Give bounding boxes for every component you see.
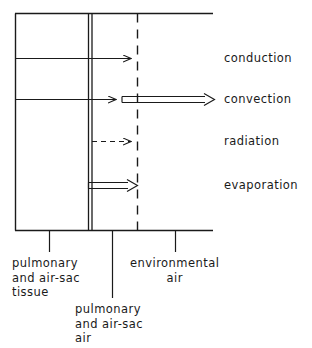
figure-container: conduction convection radiation evaporat…: [0, 0, 312, 348]
region-label-air-sac-air: pulmonary and air-sac air: [75, 302, 143, 346]
frame-group: [15, 14, 213, 231]
convection-arrow-head: [204, 94, 215, 106]
flow-label-evaporation: evaporation: [224, 180, 298, 192]
region-label-tissue: pulmonary and air-sac tissue: [12, 256, 80, 300]
evaporation-arrow: [89, 180, 138, 192]
convection-arrow: [16, 94, 215, 106]
evaporation-arrow-head: [127, 180, 138, 192]
air-sac-wall-group: [89, 14, 93, 231]
flow-label-convection: convection: [224, 94, 291, 106]
flow-label-conduction: conduction: [224, 53, 292, 65]
flow-label-radiation: radiation: [224, 136, 279, 148]
region-label-environment: environmental air: [130, 256, 219, 285]
